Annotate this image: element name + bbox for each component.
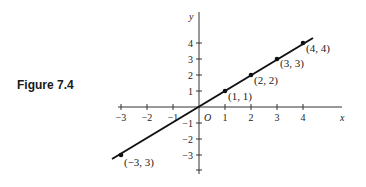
y-tick-label: −2 [182,134,193,145]
x-tick-label: 4 [301,112,306,123]
point-label: (2, 2) [254,74,278,87]
origin-label: O [204,112,211,123]
point-label: (4, 4) [306,42,330,55]
x-tick-label: 1 [223,112,228,123]
x-tick-label: −2 [142,112,153,123]
x-axis-label: x [339,112,345,123]
y-tick-label: 4 [188,38,193,49]
y-axis-label: y [188,11,194,22]
point-label: (1, 1) [228,90,252,103]
y-tick-label: −3 [182,150,193,161]
point-label: (−3, 3) [124,156,154,169]
y-tick-label: 3 [188,54,193,65]
point-label: (3, 3) [280,57,304,70]
y-tick-label: 1 [188,86,193,97]
x-tick-label: 2 [249,112,254,123]
x-tick-label: −3 [116,112,127,123]
y-tick-label: −1 [182,118,193,129]
x-tick-label: 3 [275,112,280,123]
y-tick-label: 2 [188,70,193,81]
line-plot: −3 −2 −1 1 2 3 4 4 3 2 1 −1 −2 −3 x y O … [0,0,366,187]
